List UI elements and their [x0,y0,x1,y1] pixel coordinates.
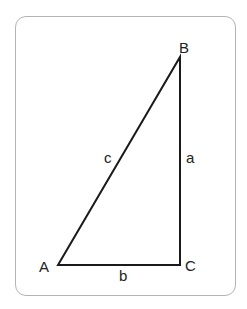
triangle-shape [58,57,180,265]
side-label-b: b [119,267,127,284]
vertex-label-c: C [185,257,196,274]
side-label-a: a [186,149,195,166]
vertex-label-b: B [179,39,189,56]
side-label-c: c [104,149,112,166]
right-triangle-diagram: A B C a b c [0,0,247,309]
vertex-label-a: A [39,258,49,275]
